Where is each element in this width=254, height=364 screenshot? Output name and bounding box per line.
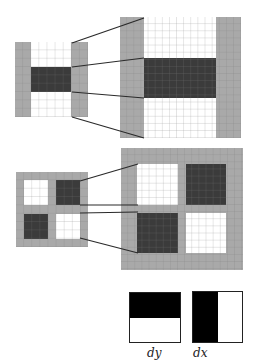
dy-filter-box (129, 292, 181, 343)
dy-label: dy (147, 346, 161, 360)
dx-label: dx (193, 346, 207, 360)
dy-black-half (130, 293, 180, 318)
dx-filter-box (192, 291, 243, 343)
dx-black-half (193, 292, 218, 342)
